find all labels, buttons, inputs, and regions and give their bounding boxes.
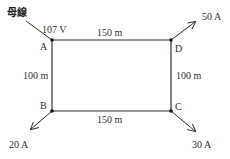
node-b-label: B xyxy=(40,101,47,111)
load-d-current: 50 A xyxy=(202,12,221,22)
node-c-dot xyxy=(169,109,173,113)
source-voltage-label: 107 V xyxy=(42,25,67,35)
segment-ad-length: 150 m xyxy=(97,28,122,38)
load-arrow-b xyxy=(31,111,52,129)
node-d-dot xyxy=(169,38,173,42)
segment-ab-length: 100 m xyxy=(23,71,48,81)
node-a-dot xyxy=(50,38,54,42)
load-b-current: 20 A xyxy=(9,140,28,150)
load-arrow-c xyxy=(171,111,195,131)
segment-dc-length: 100 m xyxy=(176,71,201,81)
node-c-label: C xyxy=(175,102,182,112)
load-arrow-d xyxy=(171,22,195,40)
segment-bc-length: 150 m xyxy=(97,115,122,125)
node-d-label: D xyxy=(175,44,182,54)
node-b-dot xyxy=(50,109,54,113)
node-a-label: A xyxy=(40,42,47,52)
load-c-current: 30 A xyxy=(192,140,211,150)
distribution-loop-diagram: 母線 107 V A B C D 150 m 150 m 100 m 100 m… xyxy=(0,0,230,159)
bus-label: 母線 xyxy=(7,8,27,18)
